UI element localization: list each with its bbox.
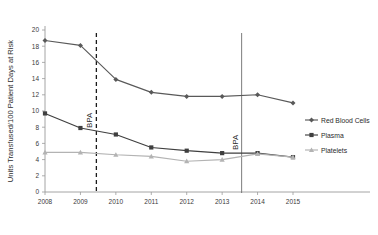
bpa-annotation-label: BPA <box>85 112 94 128</box>
x-tick-label: 2011 <box>144 198 158 205</box>
y-tick-label: 0 <box>35 188 39 195</box>
x-tick-label: 2012 <box>179 198 194 205</box>
y-tick-label: 16 <box>32 59 40 66</box>
legend-label: Platelets <box>321 147 348 154</box>
data-point-marker <box>43 111 47 115</box>
x-tick-label: 2008 <box>38 198 53 205</box>
legend-label: Plasma <box>321 132 344 139</box>
x-tick-label: 2010 <box>109 198 124 205</box>
y-tick-label: 14 <box>32 75 40 82</box>
bpa-annotation-label: BPA <box>231 134 240 150</box>
y-tick-label: 12 <box>32 91 40 98</box>
x-tick-label: 2009 <box>73 198 88 205</box>
y-axis-title-text: Units Transfused/100 Patient Days at Ris… <box>6 40 15 182</box>
y-tick-label: 20 <box>32 26 40 33</box>
legend-label: Red Blood Cells <box>321 117 370 124</box>
transfusion-trend-line-chart: Units Transfused/100 Patient Days at Ris… <box>0 0 378 235</box>
data-point-marker <box>78 126 82 130</box>
y-axis-title: Units Transfused/100 Patient Days at Ris… <box>6 40 15 182</box>
y-tick-label: 4 <box>35 156 39 163</box>
x-tick-label: 2013 <box>215 198 230 205</box>
x-tick-label: 2015 <box>286 198 301 205</box>
y-tick-label: 8 <box>35 124 39 131</box>
data-point-marker <box>114 132 118 136</box>
y-tick-label: 2 <box>35 172 39 179</box>
y-tick-label: 10 <box>32 107 40 114</box>
y-tick-label: 18 <box>32 43 40 50</box>
chart-container: Units Transfused/100 Patient Days at Ris… <box>0 0 378 235</box>
data-point-marker <box>185 149 189 153</box>
data-point-marker <box>220 151 224 155</box>
legend-marker-icon <box>309 133 313 137</box>
x-tick-label: 2014 <box>250 198 265 205</box>
y-tick-label: 6 <box>35 140 39 147</box>
data-point-marker <box>149 145 153 149</box>
